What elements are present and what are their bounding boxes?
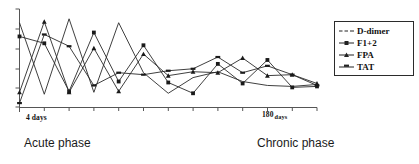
data-point-marker [67, 45, 72, 47]
legend-marker-square-line-icon [338, 38, 355, 48]
data-point-marker [240, 72, 245, 74]
data-point-marker [216, 62, 220, 66]
data-point-marker [166, 81, 170, 85]
legend-item-tat: TAT [338, 61, 413, 73]
legend-marker-triangle-line-icon [338, 50, 355, 60]
data-point-marker [42, 41, 46, 45]
data-point-marker [191, 91, 195, 95]
data-point-marker [141, 52, 146, 56]
data-point-marker [290, 86, 294, 90]
legend-label-d-dimer: D-dimer [355, 26, 390, 36]
data-point-marker [315, 84, 320, 86]
data-point-marker [215, 56, 220, 58]
data-point-marker [17, 90, 22, 94]
data-point-marker [191, 68, 196, 70]
legend-marker-bar-line-icon [338, 62, 355, 72]
acute-phase-label: Acute phase [24, 136, 91, 150]
data-point-marker [141, 74, 146, 76]
legend-label-tat: TAT [355, 62, 374, 72]
data-point-marker [42, 33, 47, 35]
legend-marker-dash-line-icon [338, 26, 355, 36]
x-axis-start-label: 4 days [26, 113, 47, 122]
data-point-marker [91, 84, 96, 86]
legend-item-f1-2: F1+2 [338, 37, 413, 49]
data-point-marker [241, 82, 245, 86]
line-chart-figure: 4 days 180days Acute phase Chronic phase… [0, 0, 419, 164]
data-point-marker [117, 80, 121, 84]
chart-axes [16, 9, 318, 112]
data-point-marker [17, 102, 22, 104]
x-axis-end-value: 180 [262, 110, 274, 119]
data-point-marker [18, 35, 22, 39]
legend-item-fpa: FPA [338, 49, 413, 61]
data-point-marker [166, 70, 171, 72]
legend-item-d-dimer: D-dimer [338, 25, 413, 37]
data-point-marker [91, 46, 96, 50]
chronic-phase-label: Chronic phase [257, 136, 334, 150]
data-point-marker [266, 58, 270, 62]
legend-label-f1-2: F1+2 [355, 38, 377, 48]
data-point-marker [290, 74, 295, 76]
data-point-marker [142, 43, 146, 47]
legend-label-fpa: FPA [355, 50, 374, 60]
x-axis-end-label: 180days [262, 110, 286, 119]
data-point-marker [240, 56, 245, 60]
chart-series-layer [17, 19, 319, 104]
chart-legend: D-dimer F1+2 FPA [334, 21, 414, 76]
x-axis-end-unit: days [275, 113, 288, 120]
data-point-marker [42, 19, 47, 23]
data-point-marker [265, 65, 270, 67]
data-point-marker [116, 72, 121, 74]
data-point-marker [92, 31, 96, 35]
